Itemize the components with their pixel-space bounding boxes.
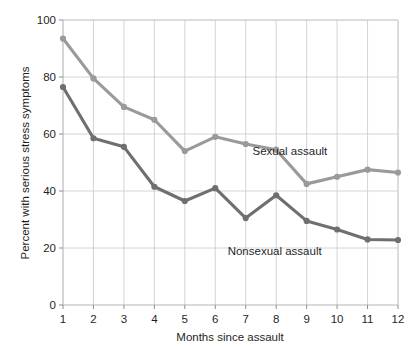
data-point (364, 236, 370, 242)
data-point (121, 104, 127, 110)
line-chart: 020406080100 123456789101112 Sexual assa… (0, 0, 420, 347)
y-axis-title: Percent with serious stress symptoms (19, 66, 31, 259)
x-tick-label: 2 (90, 313, 96, 325)
y-tick-label: 80 (43, 71, 56, 83)
data-point (151, 117, 157, 123)
data-point (334, 174, 340, 180)
x-tick-marks (63, 305, 398, 309)
data-point (304, 218, 310, 224)
y-tick-label: 40 (43, 185, 56, 197)
x-tick-label: 5 (182, 313, 188, 325)
x-tick-labels: 123456789101112 (60, 313, 405, 325)
data-point (90, 75, 96, 81)
series-sexual-assault (60, 35, 401, 187)
series-label: Nonsexual assault (228, 245, 323, 257)
data-point (395, 237, 401, 243)
data-point (334, 226, 340, 232)
y-tick-label: 100 (37, 14, 56, 26)
data-point (212, 134, 218, 140)
x-axis-title: Months since assault (176, 331, 284, 343)
x-tick-label: 8 (273, 313, 279, 325)
x-tick-label: 6 (212, 313, 218, 325)
data-point (364, 167, 370, 173)
series-nonsexual-assault (60, 84, 401, 243)
series-label: Sexual assault (252, 145, 328, 157)
y-tick-label: 60 (43, 128, 56, 140)
x-tick-label: 4 (151, 313, 158, 325)
y-tick-label: 0 (50, 299, 56, 311)
x-tick-label: 12 (392, 313, 405, 325)
data-point (90, 135, 96, 141)
y-tick-labels: 020406080100 (37, 14, 56, 311)
y-tick-label: 20 (43, 242, 56, 254)
series-lines (60, 35, 401, 243)
chart-container: 020406080100 123456789101112 Sexual assa… (0, 0, 420, 347)
x-tick-label: 11 (362, 313, 374, 325)
data-point (182, 198, 188, 204)
data-point (60, 35, 66, 41)
data-point (395, 169, 401, 175)
data-point (151, 184, 157, 190)
axis-frame (63, 20, 398, 305)
series-annotations: Sexual assaultNonsexual assault (228, 145, 328, 257)
data-point (60, 84, 66, 90)
y-tick-marks (59, 20, 63, 305)
data-point (121, 144, 127, 150)
x-tick-label: 1 (60, 313, 66, 325)
x-tick-label: 7 (243, 313, 249, 325)
data-point (212, 185, 218, 191)
data-point (243, 141, 249, 147)
grid-lines (63, 20, 398, 305)
x-tick-label: 9 (303, 313, 309, 325)
data-point (243, 215, 249, 221)
series-polyline (63, 87, 398, 240)
series-polyline (63, 39, 398, 184)
x-tick-label: 10 (331, 313, 344, 325)
data-point (304, 181, 310, 187)
x-tick-label: 3 (121, 313, 127, 325)
data-point (182, 148, 188, 154)
data-point (273, 192, 279, 198)
